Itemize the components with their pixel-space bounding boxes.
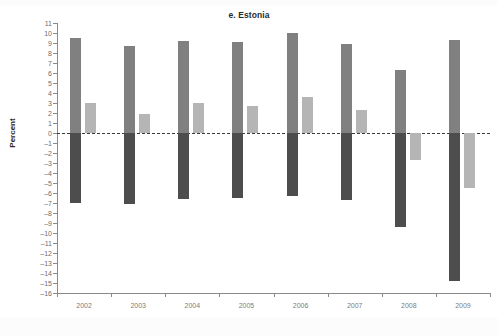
y-tick-label: 1 (0, 120, 52, 127)
y-tick-mark (53, 53, 57, 54)
y-tick-mark (53, 203, 57, 204)
bar-series-2-2009 (449, 133, 460, 281)
y-tick-label: 7 (0, 60, 52, 67)
y-tick-label: 10 (0, 30, 52, 37)
y-tick-label: –6 (0, 190, 52, 197)
x-tick-mark (274, 293, 275, 297)
y-tick-mark (53, 223, 57, 224)
bar-series-3-2008 (410, 133, 421, 160)
x-tick-mark (490, 293, 491, 297)
y-tick-mark (53, 283, 57, 284)
y-tick-label: –16 (0, 290, 52, 297)
y-tick-mark (53, 263, 57, 264)
y-tick-label: –15 (0, 280, 52, 287)
x-tick-label: 2007 (347, 302, 363, 309)
y-tick-label: 9 (0, 40, 52, 47)
y-tick-label: 4 (0, 90, 52, 97)
bar-series-1-2006 (287, 33, 298, 133)
y-tick-mark (53, 33, 57, 34)
y-tick-mark (53, 163, 57, 164)
y-tick-label: 5 (0, 80, 52, 87)
x-tick-mark (165, 293, 166, 297)
x-tick-label: 2008 (401, 302, 417, 309)
y-tick-label: 2 (0, 110, 52, 117)
bar-series-3-2006 (302, 97, 313, 133)
y-tick-mark (53, 243, 57, 244)
bar-series-2-2004 (178, 133, 189, 199)
y-tick-mark (53, 93, 57, 94)
bar-series-2-2005 (232, 133, 243, 198)
y-tick-label: –11 (0, 240, 52, 247)
y-tick-mark (53, 193, 57, 194)
zero-reference-line (57, 133, 490, 134)
chart-title: e. Estonia (0, 10, 498, 20)
bar-series-2-2002 (70, 133, 81, 203)
y-tick-label: –4 (0, 170, 52, 177)
y-tick-mark (53, 143, 57, 144)
bar-series-1-2009 (449, 40, 460, 133)
y-tick-label: –2 (0, 150, 52, 157)
y-tick-label: 0 (0, 130, 52, 137)
y-tick-label: –3 (0, 160, 52, 167)
y-tick-label: 11 (0, 20, 52, 27)
x-tick-mark (219, 293, 220, 297)
x-tick-mark (328, 293, 329, 297)
y-tick-mark (53, 183, 57, 184)
x-tick-label: 2005 (239, 302, 255, 309)
y-tick-mark (53, 213, 57, 214)
y-tick-mark (53, 153, 57, 154)
x-tick-label: 2002 (76, 302, 92, 309)
bar-series-1-2008 (395, 70, 406, 133)
y-tick-mark (53, 43, 57, 44)
y-tick-label: –8 (0, 210, 52, 217)
y-tick-mark (53, 173, 57, 174)
bar-series-1-2005 (232, 42, 243, 133)
bar-series-3-2002 (85, 103, 96, 133)
bar-series-2-2006 (287, 133, 298, 196)
y-tick-mark (53, 63, 57, 64)
x-tick-label: 2006 (293, 302, 309, 309)
y-tick-mark (53, 23, 57, 24)
bar-series-1-2002 (70, 38, 81, 133)
bar-series-2-2003 (124, 133, 135, 204)
y-tick-label: –1 (0, 140, 52, 147)
x-tick-mark (382, 293, 383, 297)
y-tick-label: –14 (0, 270, 52, 277)
bar-series-1-2003 (124, 46, 135, 133)
x-tick-mark (111, 293, 112, 297)
y-tick-mark (53, 233, 57, 234)
y-tick-label: –9 (0, 220, 52, 227)
y-tick-label: –10 (0, 230, 52, 237)
y-tick-label: –7 (0, 200, 52, 207)
y-tick-mark (53, 253, 57, 254)
bar-series-3-2005 (247, 106, 258, 133)
y-tick-label: 3 (0, 100, 52, 107)
bar-series-1-2007 (341, 44, 352, 133)
y-axis-line (57, 23, 58, 294)
y-tick-label: 6 (0, 70, 52, 77)
x-tick-mark (436, 293, 437, 297)
chart-container: e. Estonia Percent 11109876543210–1–2–3–… (0, 0, 498, 336)
y-tick-mark (53, 273, 57, 274)
x-tick-mark (57, 293, 58, 297)
bar-series-3-2003 (139, 114, 150, 133)
y-tick-mark (53, 113, 57, 114)
y-tick-mark (53, 123, 57, 124)
y-tick-label: –5 (0, 180, 52, 187)
bar-series-2-2007 (341, 133, 352, 200)
bar-series-2-2008 (395, 133, 406, 227)
bar-series-1-2004 (178, 41, 189, 133)
x-tick-label: 2009 (455, 302, 471, 309)
y-tick-label: 8 (0, 50, 52, 57)
y-tick-mark (53, 103, 57, 104)
y-tick-mark (53, 73, 57, 74)
y-tick-label: –13 (0, 260, 52, 267)
x-tick-label: 2004 (185, 302, 201, 309)
bar-series-3-2007 (356, 110, 367, 133)
y-tick-mark (53, 83, 57, 84)
x-tick-label: 2003 (130, 302, 146, 309)
bar-series-3-2004 (193, 103, 204, 133)
y-tick-label: –12 (0, 250, 52, 257)
bar-series-3-2009 (464, 133, 475, 188)
